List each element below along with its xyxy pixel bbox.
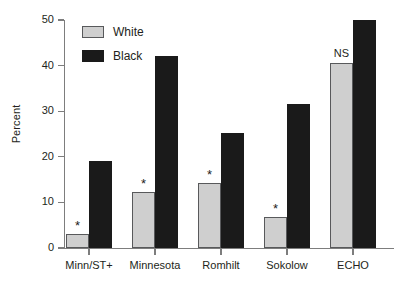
- y-axis-tick: [58, 19, 64, 20]
- bar-black-3: [287, 104, 310, 248]
- y-axis-tick-label: 40: [14, 60, 54, 71]
- x-axis-tick-label: Sokolow: [254, 260, 320, 271]
- annotation-significance-star: *: [198, 168, 221, 181]
- legend-item-white: White: [82, 22, 144, 42]
- bar-black-4: [353, 20, 376, 248]
- annotation-not-significant: NS: [330, 48, 353, 59]
- x-axis-tick: [154, 248, 155, 255]
- x-axis-tick: [352, 248, 353, 255]
- y-axis-tick-label: 10: [14, 196, 54, 207]
- y-axis-tick-label: 30: [14, 105, 54, 116]
- bar-white-3: [264, 217, 287, 248]
- y-axis-tick-label: 0: [14, 242, 54, 253]
- x-axis-tick: [220, 248, 221, 255]
- x-axis-tick-label: ECHO: [320, 260, 386, 271]
- annotation-significance-star: *: [132, 177, 155, 190]
- x-axis-tick-label: Romhilt: [188, 260, 254, 271]
- y-axis-tick-label: 50: [14, 14, 54, 25]
- legend-item-black: Black: [82, 46, 144, 66]
- legend-label-white: White: [113, 26, 144, 38]
- y-axis-tick-label: 20: [14, 151, 54, 162]
- x-axis-tick: [88, 248, 89, 255]
- bar-black-1: [155, 56, 178, 248]
- legend-swatch-black-icon: [82, 50, 104, 62]
- legend: White Black: [82, 22, 144, 70]
- y-axis-line: [64, 20, 65, 248]
- annotation-significance-star: *: [66, 219, 89, 232]
- bar-white-0: [66, 234, 89, 248]
- y-axis-tick: [58, 247, 64, 248]
- legend-label-black: Black: [113, 50, 142, 62]
- x-axis-tick-label: Minn/ST+: [56, 260, 122, 271]
- y-axis-label: Percent: [10, 89, 22, 159]
- bar-black-0: [89, 161, 112, 248]
- y-axis-tick: [58, 65, 64, 66]
- x-axis-tick-label: Minnesota: [122, 260, 188, 271]
- legend-swatch-white-icon: [82, 26, 104, 38]
- annotation-significance-star: *: [264, 202, 287, 215]
- y-axis-tick: [58, 202, 64, 203]
- y-axis-tick: [58, 156, 64, 157]
- x-axis-tick: [286, 248, 287, 255]
- bar-white-4: [330, 63, 353, 248]
- bar-white-1: [132, 192, 155, 248]
- bar-chart: Percent 01020304050 ****NS Minn/ST+Minne…: [0, 0, 402, 285]
- y-axis-tick: [58, 111, 64, 112]
- bar-white-2: [198, 183, 221, 248]
- bar-black-2: [221, 133, 244, 248]
